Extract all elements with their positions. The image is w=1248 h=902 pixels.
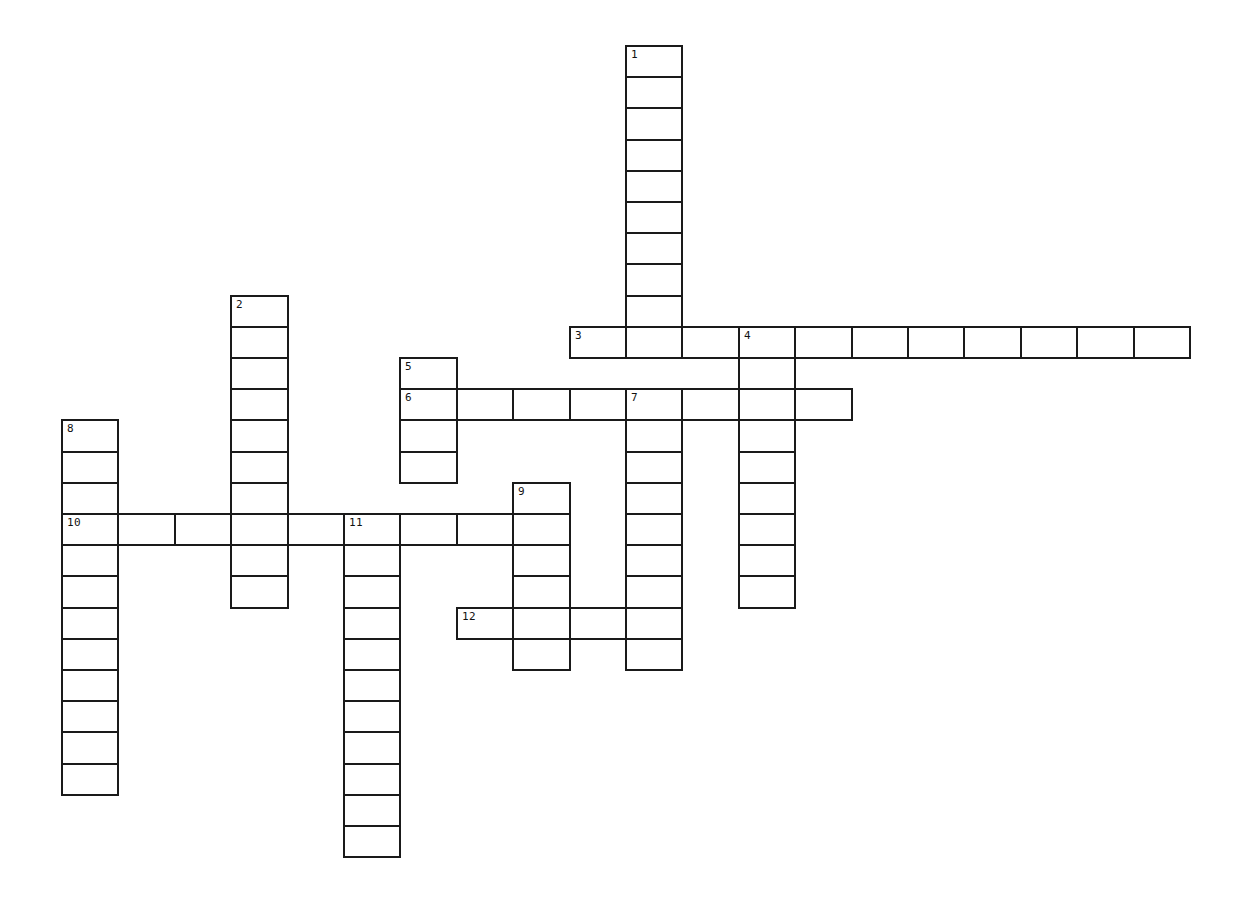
cell-letter-input[interactable] (232, 484, 287, 513)
grid-cell[interactable]: 11 (343, 513, 401, 546)
grid-cell[interactable] (738, 575, 796, 609)
cell-letter-input[interactable] (345, 640, 399, 669)
cell-letter-input[interactable] (458, 515, 512, 544)
grid-cell[interactable] (738, 544, 796, 577)
cell-letter-input[interactable] (740, 359, 794, 388)
cell-letter-input[interactable] (627, 515, 681, 544)
grid-cell[interactable] (851, 326, 909, 359)
grid-cell[interactable] (738, 357, 796, 390)
cell-letter-input[interactable] (740, 484, 794, 513)
grid-cell[interactable] (61, 763, 119, 796)
cell-letter-input[interactable] (63, 546, 117, 575)
grid-cell[interactable] (738, 482, 796, 515)
grid-cell[interactable] (738, 451, 796, 484)
grid-cell[interactable] (343, 825, 401, 858)
grid-cell[interactable]: 10 (61, 513, 119, 546)
grid-cell[interactable] (230, 575, 289, 609)
grid-cell[interactable]: 4 (738, 326, 796, 359)
grid-cell[interactable] (399, 451, 458, 484)
cell-letter-input[interactable] (63, 733, 117, 763)
grid-cell[interactable] (625, 544, 683, 577)
grid-cell[interactable] (230, 326, 289, 359)
grid-cell[interactable] (230, 388, 289, 421)
cell-letter-input[interactable] (627, 141, 681, 170)
grid-cell[interactable]: 5 (399, 357, 458, 390)
cell-letter-input[interactable] (345, 577, 399, 607)
cell-letter-input[interactable] (627, 297, 681, 326)
cell-letter-input[interactable] (796, 328, 851, 357)
cell-letter-input[interactable] (1022, 328, 1076, 357)
cell-letter-input[interactable] (345, 796, 399, 825)
cell-letter-input[interactable] (627, 328, 681, 357)
grid-cell[interactable] (343, 669, 401, 702)
grid-cell[interactable] (61, 638, 119, 671)
grid-cell[interactable] (399, 513, 458, 546)
grid-cell[interactable] (287, 513, 345, 546)
cell-letter-input[interactable] (401, 515, 456, 544)
grid-cell[interactable] (625, 107, 683, 141)
cell-letter-input[interactable] (232, 328, 287, 357)
grid-cell[interactable] (230, 451, 289, 484)
grid-cell[interactable] (738, 388, 796, 421)
cell-letter-input[interactable] (627, 172, 681, 201)
cell-letter-input[interactable] (401, 421, 456, 451)
cell-letter-input[interactable] (458, 390, 512, 419)
cell-letter-input[interactable] (232, 453, 287, 482)
grid-cell[interactable] (343, 700, 401, 733)
grid-cell[interactable] (343, 544, 401, 577)
cell-letter-input[interactable] (514, 515, 569, 544)
grid-cell[interactable] (963, 326, 1022, 359)
cell-letter-input[interactable] (627, 640, 681, 669)
grid-cell[interactable] (625, 263, 683, 297)
grid-cell[interactable] (343, 575, 401, 609)
grid-cell[interactable] (399, 419, 458, 453)
cell-letter-input[interactable] (232, 390, 287, 419)
cell-letter-input[interactable] (514, 390, 569, 419)
grid-cell[interactable] (794, 388, 853, 421)
cell-letter-input[interactable] (345, 733, 399, 763)
cell-letter-input[interactable] (571, 609, 625, 638)
cell-letter-input[interactable] (63, 671, 117, 700)
cell-letter-input[interactable] (909, 328, 963, 357)
cell-letter-input[interactable] (683, 328, 738, 357)
cell-letter-input[interactable] (740, 390, 794, 419)
grid-cell[interactable] (512, 513, 571, 546)
grid-cell[interactable] (569, 607, 627, 640)
cell-letter-input[interactable] (345, 546, 399, 575)
cell-letter-input[interactable] (627, 78, 681, 107)
cell-letter-input[interactable] (627, 453, 681, 482)
grid-cell[interactable] (738, 419, 796, 453)
cell-letter-input[interactable] (345, 702, 399, 731)
grid-cell[interactable] (907, 326, 965, 359)
grid-cell[interactable]: 8 (61, 419, 119, 453)
grid-cell[interactable] (681, 388, 740, 421)
grid-cell[interactable] (456, 513, 514, 546)
cell-letter-input[interactable] (740, 453, 794, 482)
grid-cell[interactable] (625, 638, 683, 671)
cell-letter-input[interactable] (796, 390, 851, 419)
grid-cell[interactable] (625, 482, 683, 515)
cell-letter-input[interactable] (63, 702, 117, 731)
grid-cell[interactable] (343, 638, 401, 671)
cell-letter-input[interactable] (63, 577, 117, 607)
cell-letter-input[interactable] (345, 765, 399, 794)
cell-letter-input[interactable] (345, 827, 399, 856)
grid-cell[interactable] (512, 575, 571, 609)
grid-cell[interactable]: 2 (230, 295, 289, 328)
grid-cell[interactable] (230, 482, 289, 515)
grid-cell[interactable] (117, 513, 176, 546)
grid-cell[interactable] (512, 638, 571, 671)
cell-letter-input[interactable] (627, 546, 681, 575)
grid-cell[interactable] (625, 419, 683, 453)
cell-letter-input[interactable] (853, 328, 907, 357)
grid-cell[interactable] (625, 326, 683, 359)
grid-cell[interactable] (174, 513, 232, 546)
cell-letter-input[interactable] (571, 390, 625, 419)
grid-cell[interactable] (625, 607, 683, 640)
cell-letter-input[interactable] (232, 359, 287, 388)
grid-cell[interactable] (512, 388, 571, 421)
cell-letter-input[interactable] (514, 577, 569, 607)
cell-letter-input[interactable] (63, 765, 117, 794)
cell-letter-input[interactable] (514, 640, 569, 669)
grid-cell[interactable] (512, 544, 571, 577)
